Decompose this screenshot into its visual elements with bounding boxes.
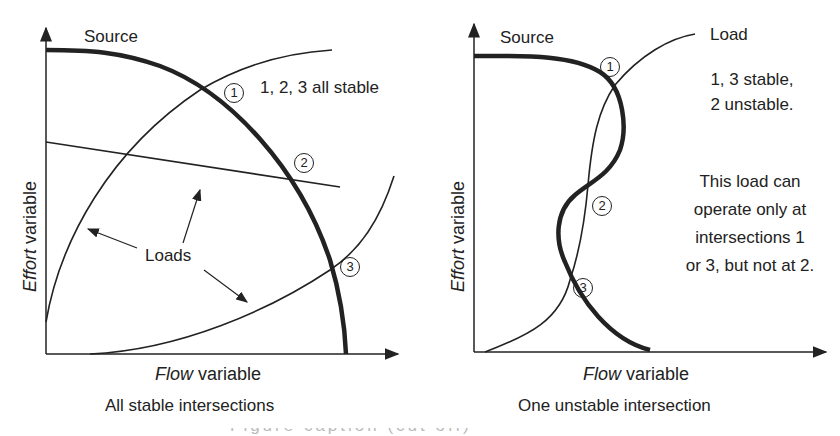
y-label-rest: variable (448, 181, 468, 244)
left-marker-3: 3 (340, 257, 360, 277)
left-marker-2: 2 (294, 153, 314, 173)
note-line-1: 1, 3 stable, (682, 67, 822, 92)
right-marker-2: 2 (592, 196, 612, 216)
x-label-rest: variable (198, 364, 261, 384)
x-label-italic: Flow (155, 364, 193, 384)
desc-line-2: operate only at (655, 196, 840, 224)
right-caption: One unstable intersection (518, 396, 711, 416)
left-source-label: Source (84, 27, 138, 47)
cut-off-figure-caption: Figure caption (cut off) (230, 428, 610, 436)
y-label-italic: Effort (20, 249, 40, 292)
left-marker-1: 1 (224, 83, 244, 103)
right-x-axis-label: Flow variable (583, 364, 689, 385)
note-line-2: 2 unstable. (682, 92, 822, 117)
left-stability-note: 1, 2, 3 all stable (260, 78, 379, 98)
right-marker-3: 3 (573, 278, 593, 298)
left-caption: All stable intersections (105, 396, 274, 416)
y-label-italic: Effort (448, 249, 468, 292)
right-description: This load can operate only at intersecti… (655, 168, 840, 280)
right-stability-note: 1, 3 stable, 2 unstable. (682, 67, 822, 117)
cut-caption-text: Figure caption (cut off) (230, 428, 610, 436)
right-marker-1: 1 (600, 57, 620, 77)
desc-line-3: intersections 1 (655, 224, 840, 252)
right-load-label: Load (710, 25, 748, 45)
right-source-curve (474, 56, 650, 350)
loads-label: Loads (145, 246, 191, 266)
left-y-axis-label: Effort variable (20, 181, 41, 292)
desc-line-1: This load can (655, 168, 840, 196)
loads-arrow-up (183, 190, 200, 243)
loads-arrow-down (204, 270, 247, 302)
desc-line-4: or 3, but not at 2. (655, 252, 840, 280)
y-label-rest: variable (20, 181, 40, 244)
left-x-axis-label: Flow variable (155, 364, 261, 385)
x-label-rest: variable (626, 364, 689, 384)
right-y-axis-label: Effort variable (448, 181, 469, 292)
x-label-italic: Flow (583, 364, 621, 384)
loads-arrow-left (88, 229, 137, 248)
right-source-label: Source (500, 28, 554, 48)
